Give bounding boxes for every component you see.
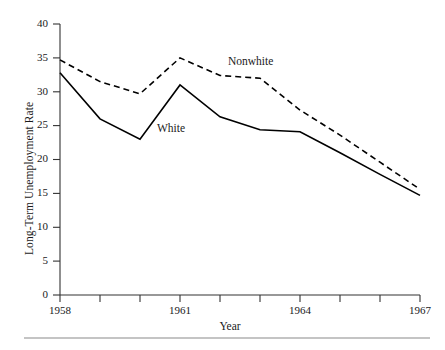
plot-area [0,0,445,350]
series-annotation-white: White [157,122,185,134]
x-tick-label-1958: 1958 [40,304,80,316]
x-axis-title: Year [200,320,260,332]
y-tick-label-20: 20 [26,152,48,164]
y-tick-label-35: 35 [26,51,48,63]
y-tick-label-25: 25 [26,118,48,130]
chart-figure: Long-Term Unemployment Rate [0,0,445,350]
x-tick-label-1964: 1964 [280,304,320,316]
y-tick-label-30: 30 [26,85,48,97]
y-axis-ticks [53,24,60,295]
x-tick-label-1961: 1961 [160,304,200,316]
x-axis-ticks [60,295,420,302]
y-tick-label-10: 10 [26,220,48,232]
y-tick-label-0: 0 [26,288,48,300]
y-tick-label-15: 15 [26,186,48,198]
y-tick-label-40: 40 [26,17,48,29]
series-line-white [60,73,420,196]
y-tick-label-5: 5 [26,254,48,266]
x-tick-label-1967: 1967 [400,304,440,316]
series-annotation-nonwhite: Nonwhite [228,55,273,67]
